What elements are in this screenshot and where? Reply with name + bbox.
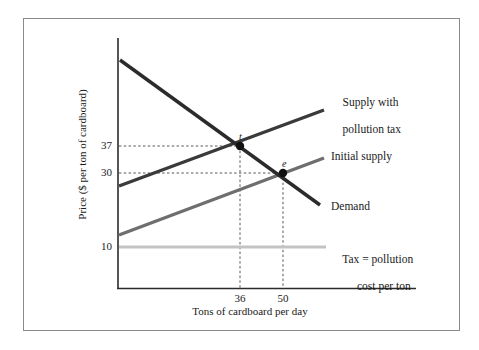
y-tick-label-30: 30 [90, 166, 112, 179]
series-label-initial-supply: Initial supply [331, 150, 392, 164]
y-axis-title: Price ($ per ton of cardboard) [76, 64, 89, 244]
y-tick-label-10: 10 [90, 240, 112, 253]
point-t-label: t [239, 131, 242, 143]
point-t-marker [236, 142, 244, 150]
x-axis-title: Tons of cardboard per day [155, 305, 345, 318]
series-label-tax-line1: Tax = pollution [342, 253, 413, 265]
series-label-tax-line2: cost per ton [331, 280, 413, 294]
supply-with-tax-line [119, 110, 324, 186]
y-tick-label-37: 37 [90, 139, 112, 152]
series-label-supply-with-tax-line2: pollution tax [343, 123, 401, 135]
demand-line [120, 60, 320, 205]
series-label-demand: Demand [331, 200, 370, 214]
series-label-supply-with-tax-line1: Supply with [343, 96, 399, 108]
x-tick-label-36: 36 [228, 292, 252, 305]
point-e-label: e [282, 158, 286, 170]
series-label-tax: Tax = pollution cost per ton [331, 239, 413, 320]
x-tick-label-50: 50 [271, 292, 295, 305]
figure-container: 37 30 10 36 50 Price ($ per ton of cardb… [0, 0, 479, 350]
point-e-marker [279, 169, 287, 177]
initial-supply-line [119, 158, 324, 235]
series-label-supply-with-tax: Supply with pollution tax [331, 82, 401, 150]
